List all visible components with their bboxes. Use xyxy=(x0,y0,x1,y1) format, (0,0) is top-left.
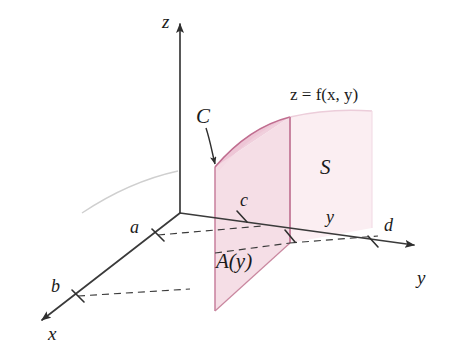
slicing-plane-a-of-y xyxy=(215,117,290,311)
surface-back-edge xyxy=(82,171,178,213)
x-axis-line xyxy=(42,213,180,320)
area-label-a-of-y: A(y) xyxy=(216,251,252,272)
tick-label-d: d xyxy=(384,216,393,234)
solid-label-s: S xyxy=(320,157,331,178)
z-axis-label: z xyxy=(162,12,169,31)
tick-label-a: a xyxy=(130,218,139,236)
tick-label-b: b xyxy=(51,277,60,295)
figure-container: z y x a b c y d C S A(y) z = f(x, y) xyxy=(0,0,450,357)
curve-label-c: C xyxy=(196,106,210,127)
tick-label-y: y xyxy=(326,208,334,226)
curve-c-leader-arrow xyxy=(206,128,215,164)
x-axis-label: x xyxy=(48,324,56,343)
surface-equation-label: z = f(x, y) xyxy=(290,86,358,103)
tick-label-c: c xyxy=(240,191,248,209)
y-axis-label: y xyxy=(417,268,425,287)
diagram-canvas xyxy=(0,0,450,357)
